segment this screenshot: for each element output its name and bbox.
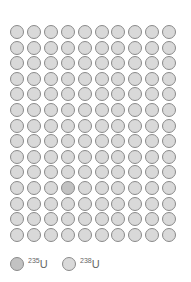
u238-atom-icon	[95, 103, 109, 117]
u238-atom-icon	[44, 103, 58, 117]
u238-atom-icon	[145, 197, 159, 211]
u238-atom-icon	[61, 197, 75, 211]
u238-atom-icon	[111, 103, 125, 117]
u238-atom-icon	[95, 212, 109, 226]
u238-atom-icon	[162, 87, 176, 101]
u238-atom-icon	[95, 72, 109, 86]
u238-atom-icon	[95, 165, 109, 179]
u238-atom-icon	[162, 103, 176, 117]
u238-atom-icon	[61, 41, 75, 55]
u238-atom-icon	[128, 150, 142, 164]
u238-atom-icon	[27, 197, 41, 211]
u238-atom-icon	[111, 72, 125, 86]
u238-atom-icon	[111, 181, 125, 195]
u238-atom-icon	[145, 134, 159, 148]
u238-atom-icon	[95, 41, 109, 55]
u238-atom-icon	[78, 56, 92, 70]
u238-atom-icon	[10, 25, 24, 39]
u238-atom-icon	[44, 165, 58, 179]
u235-swatch-icon	[10, 257, 24, 271]
u238-atom-icon	[78, 87, 92, 101]
u238-atom-icon	[128, 87, 142, 101]
u238-atom-icon	[111, 25, 125, 39]
u238-atom-icon	[162, 165, 176, 179]
u238-atom-icon	[162, 41, 176, 55]
u238-atom-icon	[95, 56, 109, 70]
u238-atom-icon	[95, 197, 109, 211]
u238-atom-icon	[44, 25, 58, 39]
u238-atom-icon	[128, 134, 142, 148]
u238-swatch-icon	[62, 257, 76, 271]
u238-atom-icon	[162, 25, 176, 39]
u238-atom-icon	[10, 134, 24, 148]
u238-atom-icon	[44, 181, 58, 195]
u238-atom-icon	[44, 41, 58, 55]
u238-atom-icon	[27, 41, 41, 55]
u238-atom-icon	[145, 150, 159, 164]
u238-atom-icon	[162, 72, 176, 86]
u235-atom-icon	[61, 181, 75, 195]
u238-atom-icon	[145, 181, 159, 195]
u238-atom-icon	[128, 25, 142, 39]
u238-atom-icon	[44, 119, 58, 133]
u238-atom-icon	[95, 134, 109, 148]
u238-atom-icon	[44, 87, 58, 101]
u238-atom-icon	[10, 181, 24, 195]
u238-atom-icon	[27, 165, 41, 179]
u238-atom-icon	[10, 56, 24, 70]
u238-atom-icon	[95, 181, 109, 195]
u238-atom-icon	[95, 119, 109, 133]
u238-atom-icon	[27, 25, 41, 39]
u238-atom-icon	[27, 150, 41, 164]
u238-atom-icon	[111, 150, 125, 164]
u238-atom-icon	[162, 228, 176, 242]
u238-atom-icon	[128, 181, 142, 195]
u238-atom-icon	[128, 228, 142, 242]
u238-atom-icon	[95, 228, 109, 242]
u238-atom-icon	[78, 197, 92, 211]
u238-atom-icon	[44, 134, 58, 148]
u238-atom-icon	[78, 41, 92, 55]
u238-atom-icon	[145, 119, 159, 133]
u238-atom-icon	[95, 150, 109, 164]
u238-atom-icon	[78, 119, 92, 133]
u238-atom-icon	[162, 212, 176, 226]
u238-atom-icon	[162, 197, 176, 211]
u238-atom-icon	[27, 181, 41, 195]
u238-atom-icon	[111, 87, 125, 101]
u238-atom-icon	[61, 134, 75, 148]
u238-atom-icon	[78, 134, 92, 148]
u238-atom-icon	[27, 87, 41, 101]
u238-atom-icon	[61, 56, 75, 70]
u238-atom-icon	[78, 181, 92, 195]
u238-atom-icon	[27, 228, 41, 242]
u238-atom-icon	[61, 165, 75, 179]
u238-atom-icon	[27, 134, 41, 148]
u238-atom-icon	[78, 25, 92, 39]
u238-atom-icon	[61, 25, 75, 39]
u238-atom-icon	[78, 212, 92, 226]
u238-atom-icon	[111, 197, 125, 211]
u238-atom-icon	[145, 56, 159, 70]
u238-atom-icon	[111, 119, 125, 133]
u238-atom-icon	[10, 212, 24, 226]
u238-atom-icon	[145, 212, 159, 226]
u238-atom-icon	[10, 119, 24, 133]
u238-atom-icon	[10, 103, 24, 117]
u238-atom-icon	[128, 103, 142, 117]
u238-atom-icon	[44, 197, 58, 211]
u238-atom-icon	[61, 212, 75, 226]
u238-atom-icon	[128, 197, 142, 211]
u238-atom-icon	[61, 119, 75, 133]
u238-atom-icon	[128, 72, 142, 86]
u238-atom-icon	[145, 41, 159, 55]
u238-atom-icon	[111, 165, 125, 179]
u238-atom-icon	[61, 150, 75, 164]
u238-atom-icon	[27, 119, 41, 133]
u238-atom-icon	[162, 181, 176, 195]
u238-atom-icon	[61, 228, 75, 242]
u238-atom-icon	[61, 103, 75, 117]
u238-atom-icon	[27, 72, 41, 86]
u238-atom-icon	[78, 72, 92, 86]
u238-atom-icon	[78, 165, 92, 179]
